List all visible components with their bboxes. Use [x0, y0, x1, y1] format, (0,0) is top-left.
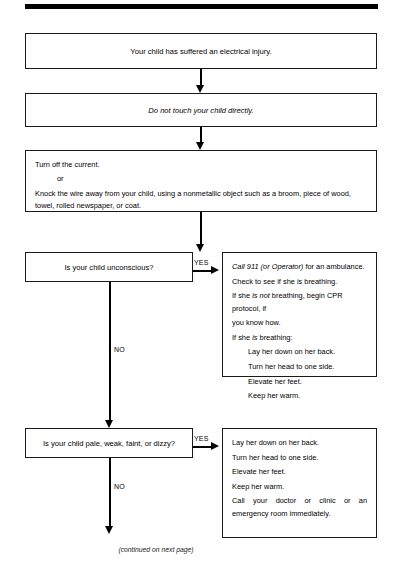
yes-connector-arrow-2 — [211, 442, 219, 450]
action1-line-elevate-feet: Elevate her feet. — [232, 376, 367, 388]
action1-line-turn-head: Turn her head to one side. — [232, 361, 367, 373]
do-not-touch-before: Do — [148, 106, 160, 115]
action2-line-call-doctor: Call your doctor or clinic or an emergen… — [232, 495, 367, 520]
connector-line-2 — [200, 127, 202, 142]
yes-connector-arrow-1 — [211, 266, 219, 274]
or-line: or — [35, 173, 367, 185]
statement-box-injury-text: Your child has suffered an electrical in… — [26, 46, 376, 57]
do-not-touch-after: touch your child directly. — [171, 106, 254, 115]
no-connector-line-2 — [109, 458, 111, 526]
top-rule-divider — [25, 4, 378, 9]
action-box-pale-weak-steps: Lay her down on her back. Turn her head … — [222, 428, 377, 538]
connector-arrow-3 — [196, 244, 204, 252]
no-connector-line-1 — [109, 282, 111, 420]
connector-arrow-2 — [196, 142, 204, 150]
decision-box-unconscious-text: Is your child unconscious? — [26, 262, 192, 273]
action1-line-not-breathing: If she is not breathing, begin CPR proto… — [232, 290, 367, 315]
statement-box-do-not-touch-inner: Do not touch your child directly. — [26, 94, 376, 126]
action1-not-breathing-emphasis: is not — [252, 291, 270, 300]
action2-line-turn-head: Turn her head to one side. — [232, 452, 367, 464]
turn-off-current-line: Turn off the current. — [35, 159, 367, 171]
action1-call-911-rest: for an ambulance. — [303, 262, 364, 271]
action1-is-breathing-before: If she — [232, 333, 252, 342]
statement-box-do-not-touch: Do not touch your child directly. — [25, 93, 377, 127]
action2-line-lay-down: Lay her down on her back. — [232, 437, 367, 449]
connector-line-1 — [200, 69, 202, 85]
flowchart-page: Your child has suffered an electrical in… — [0, 0, 401, 582]
action1-line-check-breathing: Check to see if she is breathing. — [232, 276, 367, 288]
yes-connector-line-1 — [193, 270, 213, 272]
no-connector-arrow-2 — [105, 526, 113, 534]
do-not-touch-emphasis: not — [160, 106, 171, 115]
action-box-pale-weak-steps-inner: Lay her down on her back. Turn her head … — [223, 429, 376, 537]
statement-box-do-not-touch-text: Do not touch your child directly. — [26, 105, 376, 116]
action1-line-lay-down: Lay her down on her back. — [232, 346, 367, 358]
action1-call-911-emphasis: Call 911 (or Operator) — [232, 262, 303, 271]
branch-label-yes-2: YES — [194, 434, 209, 443]
action1-line-know-how: you know how. — [232, 317, 367, 329]
action2-line-elevate-feet: Elevate her feet. — [232, 466, 367, 478]
action1-line-keep-warm: Keep her warm. — [232, 390, 367, 402]
action1-line-call-911: Call 911 (or Operator) for an ambulance. — [232, 261, 367, 273]
action1-line-is-breathing: If she is breathing: — [232, 332, 367, 344]
statement-box-turn-off-current-inner: Turn off the current. or Knock the wire … — [26, 151, 376, 211]
decision-box-unconscious: Is your child unconscious? — [25, 252, 193, 282]
decision-box-pale-weak: Is your child pale, weak, faint, or dizz… — [25, 428, 193, 458]
statement-box-injury-inner: Your child has suffered an electrical in… — [26, 34, 376, 68]
no-connector-arrow-1 — [105, 420, 113, 428]
connector-arrow-1 — [196, 85, 204, 93]
decision-box-unconscious-inner: Is your child unconscious? — [26, 253, 192, 281]
continued-note: (continued on next page) — [76, 546, 236, 553]
branch-label-no-2: NO — [114, 482, 125, 491]
action-box-unconscious-steps: Call 911 (or Operator) for an ambulance.… — [222, 252, 377, 377]
action1-not-breathing-before: If she — [232, 291, 252, 300]
decision-box-pale-weak-inner: Is your child pale, weak, faint, or dizz… — [26, 429, 192, 457]
yes-connector-line-2 — [193, 446, 213, 448]
action2-line-keep-warm: Keep her warm. — [232, 481, 367, 493]
statement-box-turn-off-current: Turn off the current. or Knock the wire … — [25, 150, 377, 212]
knock-wire-line: Knock the wire away from your child, usi… — [35, 188, 367, 213]
action-box-unconscious-steps-inner: Call 911 (or Operator) for an ambulance.… — [223, 253, 376, 376]
connector-line-3 — [200, 212, 202, 244]
branch-label-yes-1: YES — [194, 258, 209, 267]
branch-label-no-1: NO — [114, 345, 125, 354]
decision-box-pale-weak-text: Is your child pale, weak, faint, or dizz… — [26, 438, 192, 449]
action1-is-breathing-after: breathing: — [257, 333, 292, 342]
statement-box-injury: Your child has suffered an electrical in… — [25, 33, 377, 69]
